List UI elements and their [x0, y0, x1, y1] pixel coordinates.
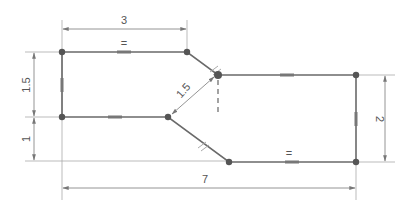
vertex[interactable] [165, 114, 171, 120]
dim-top-width[interactable]: 3 [121, 14, 127, 26]
dimension-lines [34, 29, 385, 188]
vertex[interactable] [214, 71, 222, 79]
dim-diagonal[interactable]: 1.5 [173, 81, 192, 100]
sketch-canvas: 3 = 1.5 1 1.5 2 = 7 [0, 0, 414, 207]
vertex[interactable] [353, 72, 359, 78]
equal-symbol-top: = [121, 37, 127, 49]
dim-right-height[interactable]: 2 [374, 116, 386, 122]
vertex[interactable] [59, 49, 65, 55]
vertex[interactable] [353, 159, 359, 165]
equal-symbol-bottom: = [286, 147, 292, 159]
vertex[interactable] [226, 159, 232, 165]
vertex[interactable] [184, 49, 190, 55]
dim-left-lower[interactable]: 1 [20, 136, 32, 142]
vertex[interactable] [59, 114, 65, 120]
dim-left-upper[interactable]: 1.5 [20, 77, 32, 92]
dim-total-width[interactable]: 7 [202, 173, 208, 185]
extension-lines [25, 20, 395, 200]
